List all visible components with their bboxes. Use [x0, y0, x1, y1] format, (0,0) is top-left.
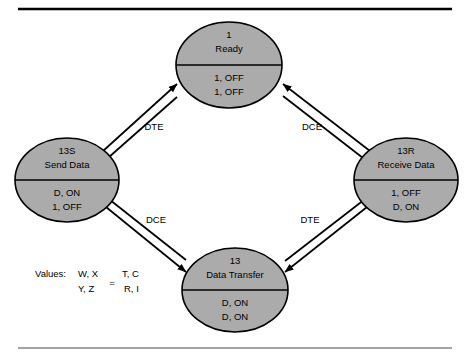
- edge-arrow-down-to-transfer-right: [285, 207, 367, 272]
- state-node-receive-data[interactable]: 13R Receive Data 1, OFF D, ON: [354, 138, 458, 222]
- legend-right-numerator: T, C: [122, 268, 139, 279]
- legend-right-denominator: R, I: [124, 283, 139, 294]
- edge-label-ready-receive: DCE: [302, 121, 322, 132]
- send-data-number: 13S: [59, 145, 76, 156]
- edge-arrow-up-right: [283, 84, 370, 151]
- edge-label-receive-transfer: DTE: [301, 214, 320, 225]
- edge-label-send-transfer: DCE: [146, 214, 166, 225]
- ready-value-line1: 1, OFF: [214, 72, 244, 83]
- send-data-name: Send Data: [45, 159, 91, 170]
- send-data-value-line1: D, ON: [54, 187, 81, 198]
- data-transfer-number: 13: [230, 255, 241, 266]
- state-node-ready[interactable]: 1 Ready 1, OFF 1, OFF: [176, 22, 282, 108]
- data-transfer-value-line1: D, ON: [222, 297, 249, 308]
- edge-ready-send-data: DTE: [100, 84, 177, 165]
- edge-arrow-up-left: [103, 84, 177, 151]
- edge-receive-data-transfer: DTE: [285, 196, 369, 272]
- legend-prefix: Values:: [35, 268, 66, 279]
- legend-left-denominator: Y, Z: [78, 283, 94, 294]
- receive-data-value-line2: D, ON: [393, 201, 420, 212]
- send-data-value-line2: 1, OFF: [52, 201, 82, 212]
- data-transfer-value-line2: D, ON: [222, 311, 249, 322]
- diagram-canvas: DTE DCE DCE DTE 1 Ready 1, OFF 1: [0, 0, 469, 358]
- edge-ready-receive-data: DCE: [283, 84, 372, 165]
- edge-send-data-transfer: DCE: [105, 196, 186, 272]
- state-node-send-data[interactable]: 13S Send Data D, ON 1, OFF: [15, 138, 119, 222]
- edge-arrow-down-right: [283, 96, 372, 165]
- edge-arrow-down-left: [100, 97, 177, 165]
- legend: Values: W, X Y, Z = T, C R, I: [35, 268, 139, 294]
- receive-data-name: Receive Data: [377, 159, 435, 170]
- ready-value-line2: 1, OFF: [214, 86, 244, 97]
- receive-data-value-line1: 1, OFF: [391, 187, 421, 198]
- edge-label-ready-send: DTE: [145, 121, 164, 132]
- legend-left-numerator: W, X: [78, 268, 99, 279]
- data-transfer-name: Data Transfer: [206, 269, 264, 280]
- state-diagram-figure: DTE DCE DCE DTE 1 Ready 1, OFF 1: [0, 0, 469, 358]
- legend-equals: =: [109, 277, 115, 288]
- state-node-data-transfer[interactable]: 13 Data Transfer D, ON D, ON: [182, 248, 288, 332]
- receive-data-number: 13R: [397, 145, 415, 156]
- edge-arrow-up-to-receive: [285, 196, 369, 261]
- ready-number: 1: [226, 29, 231, 40]
- ready-name: Ready: [215, 43, 243, 54]
- edge-arrow-up-to-send: [105, 196, 186, 260]
